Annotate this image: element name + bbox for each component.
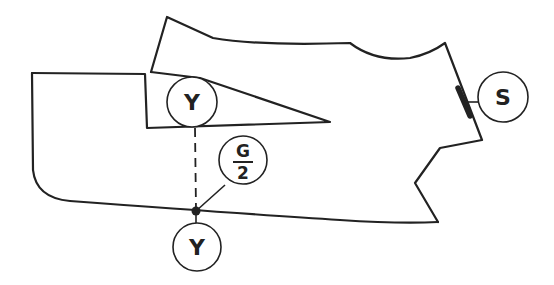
diagram-canvas: Y Y S G 2: [0, 0, 554, 285]
g2-denominator: 2: [237, 163, 249, 183]
upper-y-label: Y: [183, 90, 201, 115]
s-label: S: [495, 85, 511, 110]
g2-numerator: G: [236, 141, 250, 161]
g2-leader-line: [196, 185, 225, 211]
lower-y-label: Y: [188, 235, 206, 260]
dashed-center-line: [195, 128, 196, 210]
